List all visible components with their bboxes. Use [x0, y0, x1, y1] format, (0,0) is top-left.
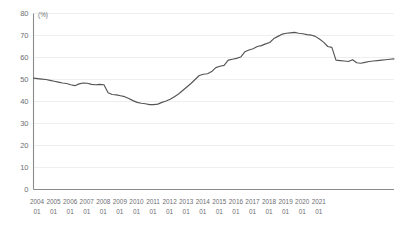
x-tick-label-month: 01 — [183, 208, 191, 215]
x-tick-label-month: 01 — [265, 208, 273, 215]
x-tick-labels: 2004012005012006012007012008012009012010… — [30, 198, 326, 215]
line-chart-svg: 01020304050607080 2004012005012006012007… — [0, 0, 407, 234]
x-tick-label-month: 01 — [282, 208, 290, 215]
series-line-value — [34, 32, 395, 104]
x-tick-label-month: 01 — [100, 208, 108, 215]
y-tick-labels: 01020304050607080 — [20, 9, 28, 194]
x-tick-label-month: 01 — [315, 208, 323, 215]
x-tick-label-month: 01 — [166, 208, 174, 215]
x-tick-label-year: 2011 — [146, 198, 160, 205]
unit-label: (%) — [38, 11, 48, 19]
x-tick-label-month: 01 — [133, 208, 141, 215]
y-tick-label: 70 — [20, 31, 28, 40]
y-tick-label: 60 — [20, 53, 28, 62]
x-tick-label-year: 2020 — [295, 198, 310, 205]
x-tick-label-month: 01 — [249, 208, 257, 215]
x-tick-label-month: 01 — [116, 208, 124, 215]
grid-lines — [34, 14, 395, 168]
x-tick-label-year: 2015 — [212, 198, 227, 205]
x-tick-label-year: 2005 — [46, 198, 61, 205]
x-tick-label-year: 2019 — [279, 198, 294, 205]
x-tick-label-month: 01 — [50, 208, 58, 215]
chart-container: 01020304050607080 2004012005012006012007… — [0, 0, 407, 234]
y-tick-label: 20 — [20, 141, 28, 150]
x-tick-label-month: 01 — [199, 208, 207, 215]
x-tick-label-year: 2007 — [80, 198, 95, 205]
x-tick-label-month: 01 — [83, 208, 91, 215]
x-tick-label-month: 01 — [67, 208, 75, 215]
x-tick-label-year: 2004 — [30, 198, 45, 205]
x-tick-label-month: 01 — [33, 208, 41, 215]
x-tick-label-year: 2021 — [312, 198, 327, 205]
x-tick-label-month: 01 — [232, 208, 240, 215]
data-series-line — [34, 32, 395, 104]
x-tick-label-month: 01 — [149, 208, 157, 215]
x-tick-label-month: 01 — [299, 208, 307, 215]
x-tick-label-year: 2013 — [179, 198, 194, 205]
y-tick-label: 30 — [20, 119, 28, 128]
x-tick-label-year: 2016 — [229, 198, 244, 205]
unit-label-text: (%) — [38, 11, 48, 19]
y-tick-label: 0 — [24, 185, 28, 194]
x-tick-label-year: 2012 — [162, 198, 177, 205]
x-tick-label-year: 2018 — [262, 198, 277, 205]
x-tick-label-year: 2009 — [113, 198, 128, 205]
x-tick-label-month: 01 — [216, 208, 224, 215]
y-tick-label: 40 — [20, 97, 28, 106]
y-tick-label: 50 — [20, 75, 28, 84]
x-tick-label-year: 2008 — [96, 198, 111, 205]
x-tick-label-year: 2017 — [245, 198, 260, 205]
x-tick-label-year: 2014 — [196, 198, 211, 205]
x-tick-label-year: 2010 — [129, 198, 144, 205]
y-tick-label: 10 — [20, 163, 28, 172]
y-tick-label: 80 — [20, 9, 28, 18]
x-tick-label-year: 2006 — [63, 198, 78, 205]
